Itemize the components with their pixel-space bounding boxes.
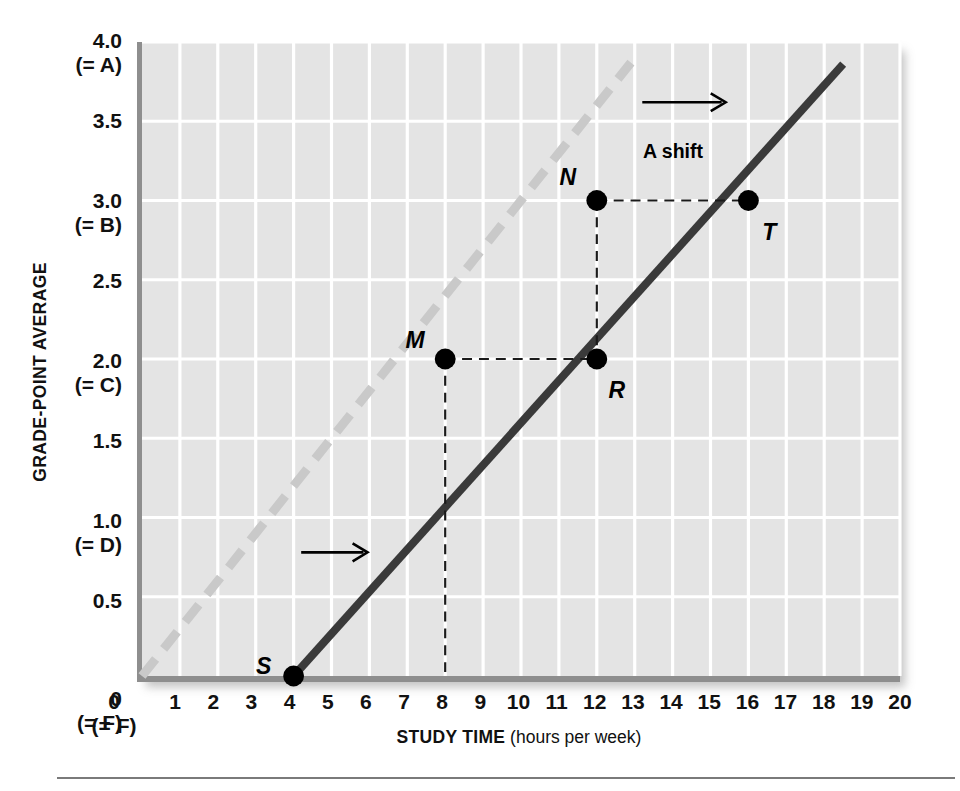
y-tick-label-3-0: 3.0(= B) [75, 189, 122, 236]
chart-series-layer [142, 42, 900, 676]
x-tick-label-16: 16 [736, 690, 759, 714]
y-tick-grade-letter: (= B) [75, 213, 122, 237]
plot-area [137, 42, 900, 682]
data-point-M[interactable] [435, 349, 456, 370]
x-tick-label-19: 19 [850, 690, 873, 714]
y-tick-value: 4.0 [93, 29, 122, 52]
y-tick-label-1-5: 1.5 [93, 429, 122, 453]
y-tick-value: 0.5 [93, 589, 122, 612]
y-tick-value: 1.0 [93, 509, 122, 532]
y-tick-label-4-0: 4.0(= A) [76, 29, 122, 76]
annotation-a-shift: A shift [643, 139, 703, 162]
x-tick-label-2: 2 [207, 690, 219, 714]
point-label-M: M [406, 327, 425, 354]
y-tick-value: 2.0 [93, 349, 122, 372]
x-tick-value: 13 [621, 690, 644, 714]
x-tick-value: 6 [360, 690, 372, 714]
x-tick-value: 20 [888, 690, 911, 714]
x-tick-value: 18 [812, 690, 835, 714]
y-tick-value: 1.5 [93, 429, 122, 452]
series-line-original-line [142, 63, 631, 676]
x-tick-label-15: 15 [698, 690, 721, 714]
x-tick-value: 19 [850, 690, 873, 714]
data-point-R[interactable] [586, 349, 607, 370]
y-tick-grade-letter: (= D) [75, 533, 122, 557]
x-tick-label-6: 6 [360, 690, 372, 714]
x-tick-value: 9 [475, 690, 487, 714]
y-axis-tick-labels: 4.0(= A)3.53.0(= B)2.52.0(= C)1.51.0(= D… [0, 0, 122, 791]
x-tick-value: 3 [246, 690, 258, 714]
x-tick-value: 14 [659, 690, 682, 714]
y-tick-label-2-0: 2.0(= C) [75, 349, 122, 396]
y-tick-grade-letter: (= A) [76, 53, 122, 77]
x-tick-label-3: 3 [246, 690, 258, 714]
data-point-N[interactable] [586, 190, 607, 211]
x-tick-value: 7 [398, 690, 410, 714]
x-tick-value: 10 [507, 690, 530, 714]
y-tick-grade-letter: (= C) [75, 373, 122, 397]
x-tick-value: 11 [546, 690, 568, 714]
data-point-T[interactable] [738, 190, 759, 211]
x-tick-label-20: 20 [888, 690, 911, 714]
x-tick-label-1: 1 [169, 690, 181, 714]
x-tick-label-18: 18 [812, 690, 835, 714]
x-tick-label-17: 17 [774, 690, 797, 714]
x-axis-title-units: (hours per week) [505, 727, 641, 747]
x-axis-title-bold: STUDY TIME [397, 727, 506, 747]
y-tick-label-2-5: 2.5 [93, 269, 122, 293]
x-axis-title: STUDY TIME (hours per week) [397, 727, 642, 748]
point-label-S: S [256, 653, 271, 680]
x-tick-grade-letter: (= F) [92, 714, 137, 738]
figure-container: 4.0(= A)3.53.0(= B)2.52.0(= C)1.51.0(= D… [0, 0, 960, 791]
bottom-divider-rule [57, 777, 955, 779]
x-tick-value: 15 [698, 690, 721, 714]
x-tick-value: 12 [583, 690, 606, 714]
x-tick-label-14: 14 [659, 690, 682, 714]
series-line-new-line [294, 64, 844, 676]
y-tick-label-3-5: 3.5 [93, 109, 122, 133]
x-tick-label-8: 8 [436, 690, 448, 714]
y-axis-title: GRADE-POINT AVERAGE [30, 262, 51, 482]
point-label-T: T [762, 219, 776, 246]
x-tick-label-9: 9 [475, 690, 487, 714]
x-tick-value: 4 [284, 690, 296, 714]
x-tick-label-13: 13 [621, 690, 644, 714]
y-tick-value: 2.5 [93, 269, 122, 292]
x-tick-label-12: 12 [583, 690, 606, 714]
x-tick-label-0: 0(= F) [92, 690, 137, 738]
x-tick-value: 5 [322, 690, 334, 714]
y-tick-value: 3.0 [93, 189, 122, 212]
x-tick-label-7: 7 [398, 690, 410, 714]
y-tick-label-0-5: 0.5 [93, 589, 122, 613]
y-tick-label-1-0: 1.0(= D) [75, 509, 122, 556]
x-tick-value: 16 [736, 690, 759, 714]
y-tick-value: 3.5 [93, 109, 122, 132]
x-tick-label-4: 4 [284, 690, 296, 714]
x-tick-label-10: 10 [507, 690, 530, 714]
point-label-R: R [608, 377, 625, 404]
x-tick-value: 1 [169, 690, 181, 714]
x-tick-value: 17 [774, 690, 797, 714]
x-tick-value: 2 [207, 690, 219, 714]
x-tick-value: 0 [92, 690, 137, 714]
x-tick-label-11: 11 [546, 690, 568, 714]
point-label-N: N [559, 164, 576, 191]
data-point-S[interactable] [283, 666, 304, 687]
x-tick-value: 8 [436, 690, 448, 714]
x-tick-label-5: 5 [322, 690, 334, 714]
